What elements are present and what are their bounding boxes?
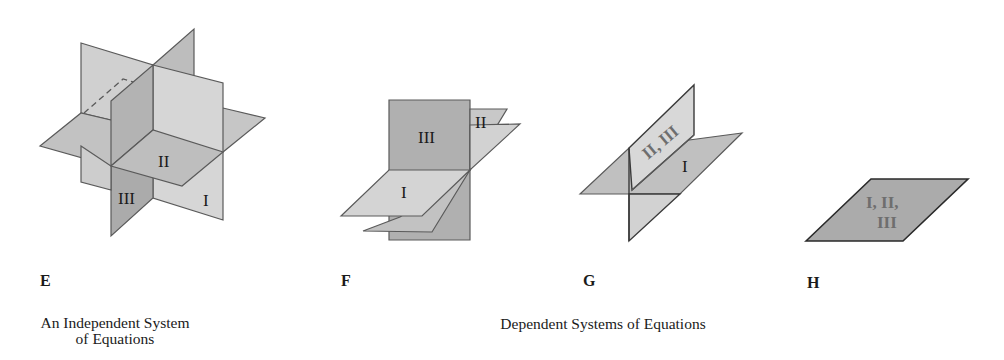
figure-f-planes: III II I <box>341 100 520 240</box>
caption-dependent: Dependent Systems of Equations <box>463 316 743 332</box>
figure-label-e: E <box>40 272 51 290</box>
plane-label-ii: II <box>475 113 487 132</box>
plane-label-line2: III <box>877 213 897 232</box>
plane-label-i: I <box>401 183 407 202</box>
plane-label-i: I <box>203 191 209 210</box>
plane-ii-iii-lower <box>629 194 680 241</box>
figure-label-f: F <box>341 272 351 290</box>
planes-diagram: II III I III II I II, III I I, II, III <box>0 0 1004 360</box>
plane-label-iii: III <box>118 189 135 208</box>
plane-label-ii: II <box>158 152 170 171</box>
figure-e-planes: II III I <box>40 29 265 236</box>
plane-label-i: I <box>682 157 688 176</box>
caption-independent-line2: of Equations <box>30 331 200 347</box>
figure-label-g: G <box>583 272 595 290</box>
plane-label-iii: III <box>418 128 435 147</box>
caption-independent-line1: An Independent System <box>30 315 200 331</box>
figure-label-h: H <box>807 274 819 292</box>
caption-independent: An Independent System of Equations <box>30 315 200 347</box>
plane-label-line1: I, II, <box>866 193 899 212</box>
figure-g-planes: II, III I <box>580 85 742 241</box>
figure-h-planes: I, II, III <box>806 179 968 241</box>
